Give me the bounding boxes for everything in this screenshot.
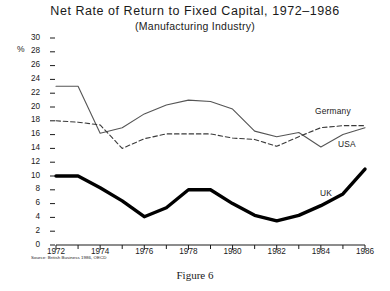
chart-page: Net Rate of Return to Fixed Capital, 197… (0, 0, 390, 291)
figure-caption: Figure 6 (0, 269, 390, 281)
plot-area: 0246810121416182022242628301972197419761… (0, 0, 390, 291)
chart-svg (0, 0, 390, 291)
series-label-usa: USA (338, 139, 356, 149)
source-note: Source: British Business 1986, OECD (31, 255, 106, 260)
series-label-uk: UK (320, 188, 332, 198)
series-line-usa (56, 121, 365, 149)
series-line-germany (56, 86, 365, 147)
series-label-germany: Germany (315, 106, 351, 116)
series-line-uk (56, 169, 365, 221)
